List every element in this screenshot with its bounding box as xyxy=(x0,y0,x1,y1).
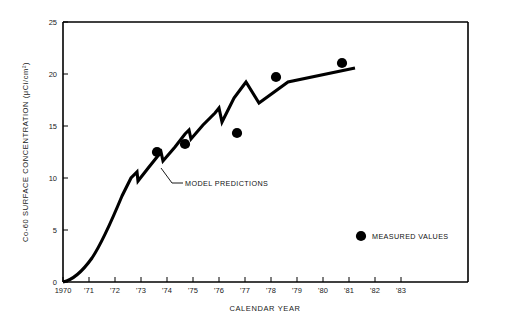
y-axis-title: Co-60 SURFACE CONCENTRATION (μCi/cm²) xyxy=(21,62,30,242)
x-tick-label: 1970 xyxy=(55,286,72,295)
y-tick-label: 5 xyxy=(53,226,57,235)
x-tick-label: '81 xyxy=(344,286,354,295)
x-tick-label: '77 xyxy=(240,286,250,295)
data-point-marker xyxy=(232,128,242,138)
x-tick-label: '71 xyxy=(84,286,94,295)
x-tick-label: '78 xyxy=(266,286,276,295)
chart-figure: 25 20 15 10 5 0 1970 '71 '72 xyxy=(0,0,507,324)
data-point-marker xyxy=(337,58,347,68)
x-tick-label: '83 xyxy=(396,286,406,295)
data-point-marker xyxy=(271,72,281,82)
x-tick-label: '72 xyxy=(110,286,120,295)
legend-marker-icon xyxy=(356,231,366,241)
y-tick-label: 25 xyxy=(49,18,57,27)
y-tick-label: 15 xyxy=(49,122,57,131)
legend-label: MEASURED VALUES xyxy=(372,232,449,241)
y-tick-label: 20 xyxy=(49,70,57,79)
y-tick-label: 10 xyxy=(49,174,57,183)
x-tick-label: '74 xyxy=(162,286,172,295)
chart-svg: 25 20 15 10 5 0 1970 '71 '72 xyxy=(0,0,507,324)
x-tick-label: '73 xyxy=(136,286,146,295)
x-tick-label: '79 xyxy=(292,286,302,295)
x-tick-label: '76 xyxy=(214,286,224,295)
x-tick-label: '82 xyxy=(370,286,380,295)
data-point-marker xyxy=(180,139,190,149)
model-predictions-annotation: MODEL PREDICTIONS xyxy=(185,179,268,188)
x-tick-label: '75 xyxy=(188,286,198,295)
x-axis-title: CALENDAR YEAR xyxy=(229,304,300,313)
x-tick-label: '80 xyxy=(318,286,328,295)
data-point-marker xyxy=(152,147,162,157)
